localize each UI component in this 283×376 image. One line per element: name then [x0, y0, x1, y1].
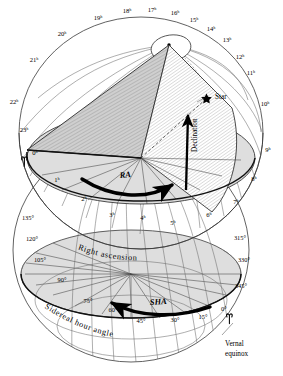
- ra-tick-6: 16ʰ: [171, 9, 181, 16]
- ra-tick-21: 1ʰ: [54, 176, 60, 183]
- celestial-sphere-svg: 22ʰ21ʰ20ʰ19ʰ18ʰ17ʰ16ʰ15ʰ14ʰ13ʰ12ʰ11ʰ10ʰ9…: [0, 0, 283, 376]
- sha-tick-9: 0°: [221, 305, 227, 312]
- ra-tick-12: 10ʰ: [261, 100, 271, 107]
- ra-tick-19: 3ʰ: [109, 211, 115, 218]
- ra-tick-22: 0ʰ: [32, 149, 38, 156]
- ra-tick-13: 9ʰ: [265, 146, 271, 153]
- sha-tick-12: 315°: [234, 234, 247, 241]
- ra-tick-15: 7ʰ: [233, 198, 239, 205]
- ra-tick-14: 8ʰ: [251, 175, 257, 182]
- ra-tick-4: 18ʰ: [123, 7, 133, 14]
- ra-tick-23: 23ʰ: [20, 126, 30, 133]
- vernal-equinox-label-line2: equinox: [225, 350, 249, 358]
- vernal-equinox-leader: [222, 323, 233, 335]
- ra-tick-10: 12ʰ: [236, 53, 246, 60]
- sha-tick-1: 120°: [26, 235, 39, 242]
- sha-tick-0: 135°: [22, 214, 35, 221]
- vernal-equinox-marker-lower: [227, 314, 233, 324]
- sha-tick-2: 105°: [34, 256, 47, 263]
- celestial-sphere-figure: 22ʰ21ʰ20ʰ19ʰ18ʰ17ʰ16ʰ15ʰ14ʰ13ʰ12ʰ11ʰ10ʰ9…: [0, 0, 283, 376]
- ra-tick-11: 11ʰ: [247, 69, 256, 76]
- ra-tick-17: 5ʰ: [170, 219, 176, 226]
- vernal-equinox-label-line1: Vernal: [225, 340, 244, 348]
- ra-tick-9: 13ʰ: [223, 36, 233, 43]
- sha-tick-3: 90°: [58, 276, 67, 283]
- declination-label: Declination: [191, 118, 199, 152]
- sha-tick-10: 345°: [235, 282, 248, 289]
- sha-tick-8: 15°: [199, 313, 208, 320]
- ra-tick-1: 21ʰ: [30, 56, 40, 63]
- ra-tick-20: 2ʰ: [81, 195, 87, 202]
- ra-tick-2: 20ʰ: [58, 30, 68, 37]
- star-label: Star: [215, 93, 227, 101]
- ra-tick-5: 17ʰ: [148, 6, 158, 13]
- ra-tick-7: 15ʰ: [190, 16, 200, 23]
- ra-tick-0: 22ʰ: [10, 98, 20, 105]
- sha-tick-4: 75°: [84, 297, 93, 304]
- sha-tick-7: 30°: [171, 316, 180, 323]
- sha-tick-5: 60°: [109, 306, 118, 313]
- sha-tick-6: 45°: [137, 317, 146, 324]
- ra-tick-16: 6ʰ: [206, 211, 212, 218]
- ra-tick-3: 19ʰ: [94, 14, 104, 21]
- ra-arrow-label: RA: [118, 170, 131, 180]
- ra-tick-8: 14ʰ: [207, 25, 217, 32]
- ra-tick-18: 4ʰ: [140, 214, 146, 221]
- sha-arrow-label: SHA: [150, 297, 168, 307]
- sha-tick-11: 330°: [238, 256, 251, 263]
